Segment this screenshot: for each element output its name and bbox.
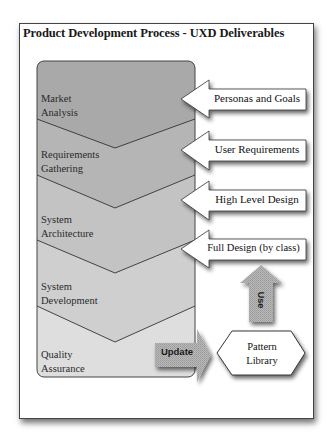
deliverable-label-high-level-design: High Level Design: [207, 193, 307, 205]
stage-label-system-development: System Development: [41, 280, 161, 308]
stage-label-requirements-gathering: Requirements Gathering: [41, 148, 161, 176]
deliverable-label-user-requirements: User Requirements: [207, 143, 307, 155]
stage-label-line: Market: [41, 92, 161, 106]
stage-label-system-architecture: System Architecture: [41, 213, 161, 241]
stage-label-line: Assurance: [41, 362, 161, 376]
stage-label-market-analysis: Market Analysis: [41, 92, 161, 120]
use-arrow-label: Use: [256, 290, 266, 310]
stage-label-line: Quality: [41, 348, 161, 362]
stage-label-quality-assurance: Quality Assurance: [41, 348, 161, 376]
stage-label-line: System: [41, 213, 161, 227]
stage-label-line: System: [41, 280, 161, 294]
update-arrow-label: Update: [156, 346, 198, 357]
stage-label-line: Requirements: [41, 148, 161, 162]
pattern-library-label: Pattern Library: [222, 340, 302, 368]
pattern-library-label-line: Library: [222, 354, 302, 368]
deliverable-label-personas: Personas and Goals: [207, 92, 307, 104]
stage-label-line: Analysis: [41, 106, 161, 120]
stage-label-line: Architecture: [41, 227, 161, 241]
stage-label-line: Gathering: [41, 162, 161, 176]
pattern-library-label-line: Pattern: [222, 340, 302, 354]
deliverable-label-full-design: Full Design (by class): [200, 242, 307, 253]
stage-label-line: Development: [41, 294, 161, 308]
